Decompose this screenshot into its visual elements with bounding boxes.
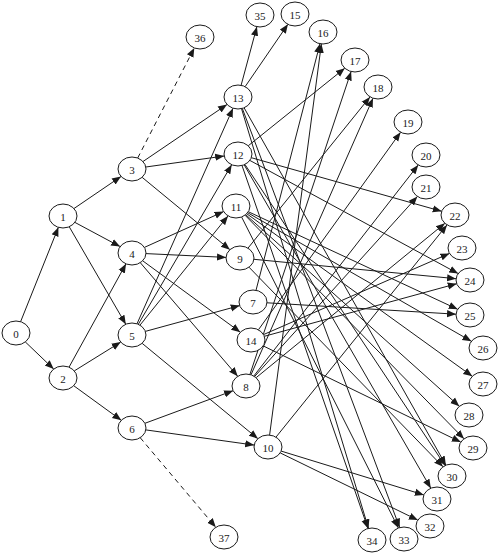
edge-5-to-12 [138, 165, 231, 325]
node-label: 8 [243, 381, 249, 393]
graph-node-13: 13 [224, 85, 252, 109]
graph-node-15: 15 [281, 2, 309, 26]
node-label: 23 [457, 243, 469, 255]
graph-node-8: 8 [232, 374, 260, 398]
graph-node-23: 23 [448, 236, 476, 260]
edge-4-to-14 [143, 261, 241, 332]
graph-node-6: 6 [118, 416, 146, 440]
node-label: 10 [263, 442, 275, 454]
node-label: 29 [468, 443, 480, 455]
edge-13-to-35 [241, 27, 257, 86]
node-label: 1 [60, 211, 66, 223]
edge-5-to-7 [145, 306, 239, 332]
node-label: 25 [465, 310, 477, 322]
graph-node-16: 16 [309, 20, 337, 44]
graph-node-25: 25 [456, 303, 484, 327]
graph-node-12: 12 [224, 142, 252, 166]
edge-2-to-4 [69, 264, 126, 367]
edge-11-to-33 [242, 217, 399, 528]
node-label: 5 [129, 330, 135, 342]
edge-9-to-30 [249, 267, 443, 467]
node-label: 16 [318, 27, 330, 39]
graph-node-26: 26 [469, 336, 497, 360]
edge-10-to-16 [270, 44, 322, 435]
node-label: 13 [233, 92, 245, 104]
edge-4-to-11 [144, 212, 223, 248]
node-label: 15 [290, 9, 302, 21]
node-label: 11 [231, 201, 242, 213]
edge-11-to-28 [246, 215, 460, 407]
node-label: 32 [425, 521, 436, 533]
node-label: 33 [399, 534, 411, 546]
edge-2-to-5 [74, 342, 120, 371]
edge-3-to-12 [146, 156, 224, 167]
edge-8-to-22 [256, 223, 445, 377]
node-label: 3 [129, 164, 135, 176]
edge-1-to-4 [75, 222, 120, 246]
node-label: 27 [478, 379, 490, 391]
node-label: 37 [219, 532, 231, 544]
edge-10-to-22 [276, 225, 447, 437]
edge-5-to-11 [140, 216, 228, 325]
graph-node-28: 28 [455, 403, 483, 427]
edge-13-to-15 [245, 24, 288, 86]
graph-node-29: 29 [459, 436, 487, 460]
graph-node-24: 24 [456, 268, 484, 292]
node-label: 18 [373, 82, 385, 94]
graph-node-20: 20 [412, 143, 440, 167]
graph-node-35: 35 [246, 3, 274, 27]
graph-node-14: 14 [237, 328, 265, 352]
node-label: 9 [237, 253, 243, 265]
node-label: 31 [432, 494, 443, 506]
node-label: 36 [195, 32, 207, 44]
graph-node-36: 36 [186, 25, 214, 49]
node-label: 30 [447, 471, 459, 483]
node-label: 22 [450, 210, 461, 222]
node-label: 7 [250, 297, 256, 309]
node-label: 28 [464, 410, 476, 422]
edge-1-to-5 [69, 227, 126, 325]
node-label: 17 [350, 55, 362, 67]
edge-11-to-29 [245, 215, 464, 439]
graph-node-2: 2 [49, 366, 77, 390]
edge-14-to-24 [264, 284, 456, 337]
graph-node-33: 33 [390, 527, 418, 551]
edge-3-to-13 [143, 105, 227, 162]
graph-node-22: 22 [441, 203, 469, 227]
node-label: 6 [129, 423, 135, 435]
node-label: 35 [255, 10, 267, 22]
graph-node-27: 27 [469, 372, 497, 396]
edge-3-to-36 [138, 48, 195, 158]
node-label: 4 [129, 248, 135, 260]
edge-6-to-10 [146, 430, 254, 445]
graph-node-9: 9 [226, 246, 254, 270]
graph-node-4: 4 [118, 241, 146, 265]
node-label: 20 [421, 150, 433, 162]
graph-node-5: 5 [118, 323, 146, 347]
node-label: 14 [246, 335, 258, 347]
edge-13-to-33 [242, 108, 399, 527]
graph-node-18: 18 [364, 75, 392, 99]
node-label: 19 [403, 117, 415, 129]
edge-14-to-23 [264, 253, 450, 334]
edge-0-to-1 [21, 227, 59, 321]
graph-node-11: 11 [222, 194, 250, 218]
node-layer: 0123456789101112131415161718192021222324… [2, 2, 497, 552]
graph-node-31: 31 [423, 487, 451, 511]
node-label: 12 [233, 149, 244, 161]
edge-0-to-2 [25, 342, 53, 369]
graph-node-34: 34 [358, 528, 386, 552]
graph-node-32: 32 [416, 514, 444, 538]
graph-node-0: 0 [2, 321, 30, 345]
edge-9-to-24 [254, 259, 456, 278]
edge-4-to-9 [146, 254, 226, 258]
node-label: 0 [13, 328, 19, 340]
graph-node-1: 1 [49, 204, 77, 228]
graph-node-3: 3 [118, 157, 146, 181]
node-label: 26 [478, 343, 490, 355]
graph-node-10: 10 [254, 435, 282, 459]
node-label: 2 [60, 373, 66, 385]
graph-node-30: 30 [438, 464, 466, 488]
node-label: 21 [421, 182, 432, 194]
edge-2-to-6 [74, 386, 122, 421]
